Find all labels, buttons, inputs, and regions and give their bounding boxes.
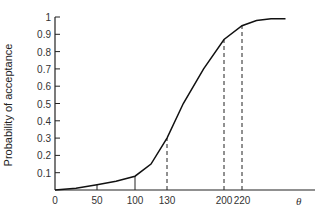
y-tick-label: 0.8 bbox=[37, 47, 51, 58]
y-tick-label: 1 bbox=[45, 12, 51, 23]
y-tick-label: 0.1 bbox=[37, 168, 51, 179]
chart-canvas: 0.10.20.30.40.50.60.70.80.91 05010013020… bbox=[0, 0, 322, 210]
x-ticks: 050100130200220 bbox=[52, 195, 251, 206]
y-tick-label: 0.3 bbox=[37, 133, 51, 144]
y-tick-label: 0.2 bbox=[37, 150, 51, 161]
y-tick-label: 0.9 bbox=[37, 29, 51, 40]
x-tick-label: 220 bbox=[234, 195, 251, 206]
y-tick-label: 0.4 bbox=[37, 116, 51, 127]
x-tick-label: 130 bbox=[159, 195, 176, 206]
x-tick-label: 200 bbox=[216, 195, 233, 206]
reference-lines bbox=[97, 26, 242, 190]
y-tick-label: 0.7 bbox=[37, 64, 51, 75]
oc-curve-chart: 0.10.20.30.40.50.60.70.80.91 05010013020… bbox=[0, 0, 322, 210]
x-tick-label: 100 bbox=[127, 195, 144, 206]
y-ticks: 0.10.20.30.40.50.60.70.80.91 bbox=[37, 12, 60, 179]
x-axis-label: θ bbox=[296, 195, 302, 207]
oc-curve bbox=[55, 19, 286, 190]
x-tick-label: 0 bbox=[52, 195, 58, 206]
x-tick-label: 50 bbox=[91, 195, 103, 206]
y-tick-label: 0.5 bbox=[37, 99, 51, 110]
y-axis-label: Probability of acceptance bbox=[2, 44, 14, 167]
y-tick-label: 0.6 bbox=[37, 81, 51, 92]
